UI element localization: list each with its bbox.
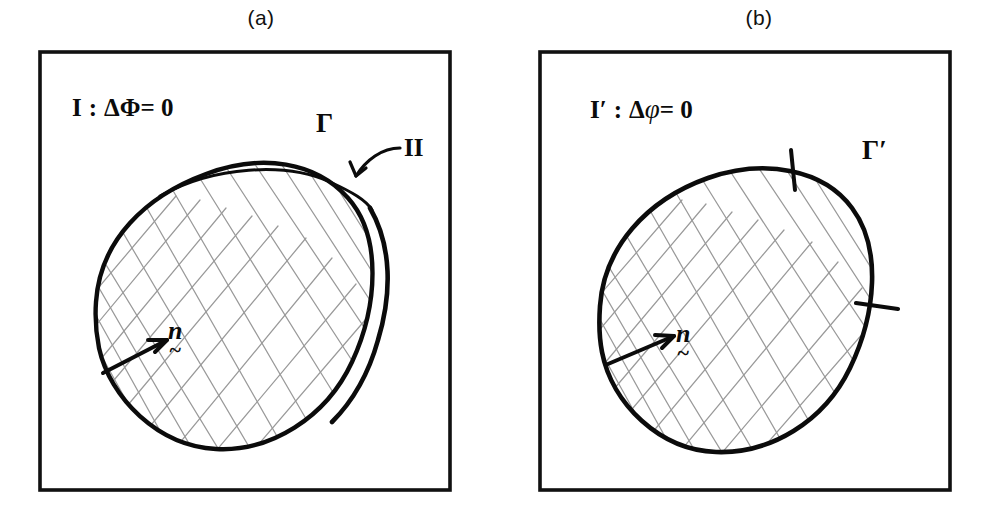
panel-b-drawing: [494, 0, 988, 518]
panel-a: (a): [0, 0, 494, 518]
region-ii-outer-curve: [332, 208, 388, 422]
panel-b-region-label: I: [590, 96, 600, 123]
normal-underaccent-b: ~: [676, 345, 690, 361]
panel-b-delta: Δ: [629, 96, 645, 123]
panel-a-equation: I:ΔΦ= 0: [72, 94, 173, 122]
region-ii-label: II: [404, 134, 423, 162]
panel-a-drawing: [0, 0, 494, 518]
figure-root: (a): [0, 0, 988, 518]
panel-a-potential-symbol: Φ: [120, 94, 141, 121]
panel-b-equation-separator: :: [614, 96, 622, 123]
panel-b-equation-rhs: = 0: [660, 96, 693, 123]
normal-vector-label-a: n ~: [168, 322, 182, 358]
panel-a-region-label: I: [72, 94, 82, 121]
region-ii-leader-arrow: [350, 148, 400, 176]
normal-vector-arrow-b: [608, 335, 674, 364]
region-i-prime-hatching: [588, 164, 894, 474]
panel-b-region-prime: ′: [600, 96, 607, 123]
boundary-tick-mark-top: [791, 150, 795, 190]
panel-b: (b): [494, 0, 988, 518]
panel-b-equation: I′:Δφ= 0: [590, 94, 693, 125]
region-i-hatching: [84, 160, 390, 470]
panel-a-equation-rhs: = 0: [140, 94, 173, 121]
panel-b-potential-symbol: φ: [645, 94, 660, 124]
boundary-tick-mark-right: [856, 303, 898, 309]
normal-underaccent-a: ~: [168, 342, 182, 358]
gamma-label: Γ: [316, 108, 333, 139]
panel-a-equation-separator: :: [89, 94, 97, 121]
panel-a-delta: Δ: [104, 94, 120, 121]
normal-vector-label-b: n ~: [676, 325, 690, 361]
gamma-prime-label: Γ′: [862, 135, 887, 166]
gamma-prime-boundary-curve: [599, 168, 872, 452]
